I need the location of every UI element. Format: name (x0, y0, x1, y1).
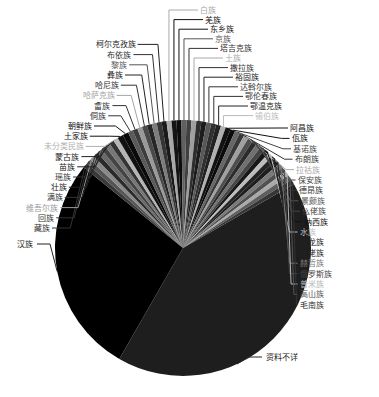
leader-line (37, 244, 57, 271)
slice-label: 苗族 (59, 162, 75, 172)
slice-label: 布依族 (107, 50, 131, 60)
slice-label: 蒙古族 (55, 152, 79, 162)
slice-label: 鄂温克族 (250, 101, 282, 111)
slice-label: 塔吉克族 (220, 43, 252, 53)
slice-label: 水族 (300, 227, 316, 237)
slice-label: 侗族 (90, 111, 106, 121)
slice-label: 赫哲族 (300, 258, 324, 268)
slice-label: 哈尼族 (95, 80, 119, 90)
slice-label: 裕固族 (235, 72, 259, 82)
slice-label: 布朗族 (295, 154, 319, 164)
slice-label: 资料不详 (266, 352, 298, 362)
slice-label: 纳西族 (304, 217, 328, 227)
slice-label: 锡伯族 (255, 111, 279, 121)
slice-label: 畲族 (94, 101, 110, 111)
slice-label: 黎族 (111, 60, 127, 70)
slice-label: 普米族 (300, 279, 324, 289)
slice-label: 达斡尔族 (240, 82, 272, 92)
slice-label: 瑶族 (55, 172, 71, 182)
slice-label: 壮族 (51, 182, 67, 192)
slice-label: 满族 (47, 192, 63, 202)
slice-label: 基诺族 (293, 144, 317, 154)
slice-label: 鄂伦春族 (245, 91, 277, 101)
slice-label: 哈萨克族 (83, 90, 115, 100)
slice-label: 拉祜族 (296, 165, 320, 175)
slice-label: 独龙族 (300, 237, 324, 247)
ethnic-pie-chart: 资料不详汉族藏族回族维吾尔族满族壮族瑶族苗族蒙古族未分类民族土家族朝鲜族侗族畲族… (0, 0, 379, 397)
slice-label: 毛南族 (300, 300, 324, 310)
slice-label: 东乡族 (210, 24, 234, 34)
leader-line (223, 116, 253, 127)
slice-label: 柯尔克孜族 (96, 39, 136, 49)
slice-label: 俄罗斯族 (300, 269, 332, 279)
slice-label: 汉族 (17, 239, 33, 249)
slice-label: 羌族 (205, 15, 221, 25)
slice-label: 京族 (215, 34, 231, 44)
slice-label: 维吾尔族 (26, 203, 58, 213)
slice-label: 保安族 (298, 175, 322, 185)
slice-label: 白族 (200, 5, 216, 15)
slice-label: 高山族 (300, 289, 324, 299)
leader-line (94, 126, 125, 134)
slice-label: 撒拉族 (230, 63, 254, 73)
slice-label: 景颇族 (301, 196, 325, 206)
slice-label: 藏族 (34, 223, 50, 233)
slice-label: 回族 (38, 213, 54, 223)
slice-label: 彝族 (107, 70, 123, 80)
slice-label: 土家族 (64, 131, 88, 141)
slice-label: 未分类民族 (44, 141, 84, 151)
slice-label: 朝鲜族 (68, 121, 92, 131)
slice-label: 佤族 (292, 133, 308, 143)
slice-label: 仡佬族 (300, 248, 324, 258)
leader-line (129, 65, 154, 124)
slice-label: 仫佬族 (302, 206, 326, 216)
slice-label: 土族 (225, 53, 241, 63)
slice-label: 阿昌族 (290, 123, 314, 133)
slice-label: 德昂族 (299, 185, 323, 195)
